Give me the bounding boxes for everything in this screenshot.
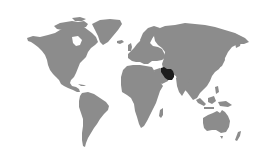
philippines xyxy=(215,86,219,94)
south-america xyxy=(79,92,109,147)
asia xyxy=(154,23,249,100)
borneo xyxy=(208,96,216,104)
tasmania xyxy=(220,136,223,139)
north-america xyxy=(27,26,98,92)
arctic-island xyxy=(72,17,86,21)
new-zealand xyxy=(235,131,241,141)
iceland xyxy=(117,40,124,44)
australia xyxy=(203,110,230,133)
great-britain xyxy=(128,43,132,51)
new-guinea xyxy=(218,101,232,107)
madagascar xyxy=(159,108,163,118)
sumatra xyxy=(196,98,206,106)
java xyxy=(204,107,214,109)
caribbean xyxy=(78,84,86,86)
world-map xyxy=(0,0,269,167)
